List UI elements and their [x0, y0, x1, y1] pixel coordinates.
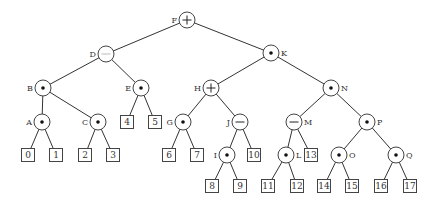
edge-F-K — [187, 20, 271, 53]
leaf-value: 17 — [404, 181, 416, 191]
node-I: I — [214, 147, 235, 163]
node-label: I — [214, 151, 217, 160]
leaf-node-5: 5 — [149, 116, 162, 129]
node-label: D — [90, 50, 96, 59]
tree-internal-nodes: FDKBEHNACGJMPILOQ — [25, 12, 413, 163]
leaf-value: 14 — [318, 181, 330, 191]
node-B: B — [27, 80, 51, 96]
node-H: H — [194, 80, 219, 96]
node-F: F — [171, 12, 195, 28]
node-label: A — [25, 118, 32, 127]
leaf-value: 1 — [53, 150, 59, 160]
leaf-node-3: 3 — [107, 149, 120, 162]
dot-operator-icon — [40, 120, 44, 124]
node-label: K — [281, 49, 288, 58]
node-label: C — [82, 118, 88, 127]
dot-operator-icon — [284, 153, 288, 157]
edge-B-C — [43, 88, 98, 122]
node-label: M — [304, 118, 312, 127]
edge-K-H — [211, 53, 271, 88]
node-D: D — [90, 46, 114, 62]
leaf-value: 2 — [82, 150, 88, 160]
leaf-value: 3 — [110, 150, 116, 160]
leaf-value: 0 — [25, 150, 31, 160]
leaf-node-2: 2 — [79, 149, 92, 162]
expression-tree-diagram: 01234567891011121314151617 FDKBEHNACGJMP… — [0, 0, 438, 203]
leaf-value: 4 — [124, 117, 130, 127]
node-label: Q — [406, 151, 413, 160]
leaf-node-7: 7 — [191, 149, 204, 162]
leaf-value: 10 — [248, 150, 260, 160]
leaf-node-0: 0 — [22, 149, 35, 162]
dot-operator-icon — [225, 153, 229, 157]
node-label: L — [296, 151, 302, 160]
node-M: M — [286, 114, 312, 130]
edge-D-B — [43, 54, 106, 88]
node-label: E — [125, 84, 131, 93]
node-L: L — [278, 147, 302, 163]
leaf-node-1: 1 — [50, 149, 63, 162]
node-N: N — [323, 80, 348, 96]
leaf-value: 16 — [375, 181, 387, 191]
node-label: H — [194, 84, 201, 93]
leaf-value: 6 — [166, 150, 172, 160]
node-C: C — [82, 114, 106, 130]
dot-operator-icon — [329, 86, 333, 90]
leaf-node-13: 13 — [305, 149, 318, 162]
node-J: J — [226, 114, 248, 130]
dot-operator-icon — [365, 120, 369, 124]
node-label: B — [27, 84, 33, 93]
leaf-node-16: 16 — [375, 180, 388, 193]
leaf-node-4: 4 — [121, 116, 134, 129]
node-label: O — [349, 151, 356, 160]
leaf-node-12: 12 — [291, 180, 304, 193]
dot-operator-icon — [394, 153, 398, 157]
dot-operator-icon — [96, 120, 100, 124]
node-G: G — [167, 114, 191, 130]
leaf-node-6: 6 — [163, 149, 176, 162]
leaf-node-11: 11 — [262, 180, 275, 193]
node-Q: Q — [388, 147, 413, 163]
dot-operator-icon — [139, 86, 143, 90]
dot-operator-icon — [337, 153, 341, 157]
leaf-node-14: 14 — [318, 180, 331, 193]
node-label: F — [171, 16, 177, 25]
node-label: N — [341, 84, 348, 93]
node-K: K — [263, 45, 288, 61]
edge-F-D — [106, 20, 187, 54]
leaf-value: 7 — [194, 150, 200, 160]
leaf-value: 12 — [291, 181, 302, 191]
leaf-node-8: 8 — [206, 180, 219, 193]
leaf-value: 8 — [209, 181, 215, 191]
leaf-value: 9 — [237, 181, 243, 191]
edge-K-N — [271, 53, 331, 88]
leaf-value: 13 — [305, 150, 317, 160]
node-O: O — [331, 147, 356, 163]
node-A: A — [25, 114, 50, 130]
leaf-node-15: 15 — [346, 180, 359, 193]
dot-operator-icon — [41, 86, 45, 90]
leaf-value: 15 — [346, 181, 358, 191]
leaf-value: 11 — [262, 181, 273, 191]
node-label: J — [226, 118, 230, 127]
node-E: E — [125, 80, 149, 96]
dot-operator-icon — [269, 51, 273, 55]
leaf-value: 5 — [152, 117, 158, 127]
node-label: P — [377, 118, 383, 127]
dot-operator-icon — [181, 120, 185, 124]
leaf-node-17: 17 — [404, 180, 417, 193]
leaf-node-10: 10 — [248, 149, 261, 162]
node-label: G — [167, 118, 173, 127]
leaf-node-9: 9 — [234, 180, 247, 193]
node-P: P — [359, 114, 383, 130]
